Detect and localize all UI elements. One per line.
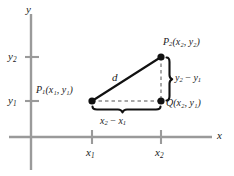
y-tick-label-y2: y2: [8, 51, 17, 64]
horizontal-leg-brace: [93, 107, 161, 113]
x-tick-label-x2: x2: [155, 147, 164, 160]
point-marker-q: [157, 97, 164, 104]
point-marker-p1: [88, 97, 95, 104]
y-tick-label-y2-sub: 2: [13, 56, 17, 64]
y-tick-label-y1: y1: [8, 95, 17, 108]
point-label-q: Q(x₂, y₁): [166, 98, 201, 108]
hypotenuse-line: [92, 57, 161, 101]
vertical-leg-brace: [167, 58, 173, 101]
point-label-q-coords: (x₂, y₁): [173, 97, 201, 108]
y-tick-label-y1-sub: 1: [13, 100, 17, 108]
horizontal-leg-label: x2 − x1: [100, 116, 126, 127]
x-tick-label-x1: x1: [86, 147, 95, 160]
vertical-leg-term2-sub: 1: [198, 76, 201, 83]
x-axis-label: x: [217, 130, 222, 141]
vertical-leg-label: y2 − y1: [175, 73, 201, 84]
x-tick-label-x1-sub: 1: [91, 152, 95, 160]
point-label-p2: P2(x₂, y₂): [163, 37, 200, 48]
point-label-p1-coords: (x₁, y₁): [45, 84, 73, 95]
distance-formula-figure: y x x1 x2 y1 y2 P2(x₂, y₂) P1(x₁, y₁) Q(…: [0, 0, 234, 176]
point-label-p2-coords: (x₂, y₂): [172, 36, 200, 47]
point-marker-p2: [157, 53, 164, 60]
x-tick-label-x2-sub: 2: [160, 152, 164, 160]
point-label-p1: P1(x₁, y₁): [36, 85, 73, 96]
hypotenuse-label: d: [112, 72, 118, 83]
y-axis-label: y: [26, 4, 31, 15]
horizontal-leg-term2-sub: 1: [123, 119, 126, 126]
